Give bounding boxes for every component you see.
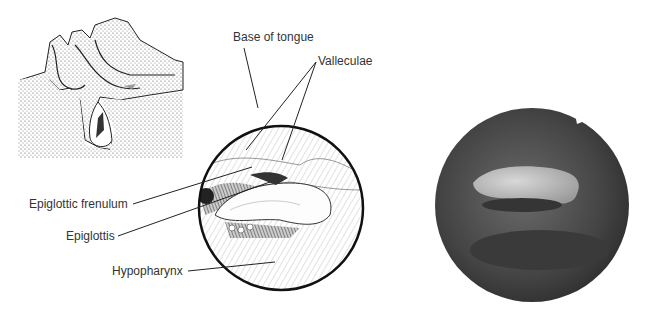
label-base-of-tongue: Base of tongue xyxy=(233,30,314,44)
label-epiglottic-frenulum: Epiglottic frenulum xyxy=(29,197,128,211)
label-epiglottis: Epiglottis xyxy=(66,229,115,243)
figure-canvas xyxy=(0,0,656,310)
label-valleculae: Valleculae xyxy=(318,54,372,68)
endoscopic-photo xyxy=(435,108,629,302)
label-hypopharynx: Hypopharynx xyxy=(112,264,183,278)
sagittal-head-diagram xyxy=(18,18,183,158)
laryngoscopic-view-drawing xyxy=(198,126,363,290)
